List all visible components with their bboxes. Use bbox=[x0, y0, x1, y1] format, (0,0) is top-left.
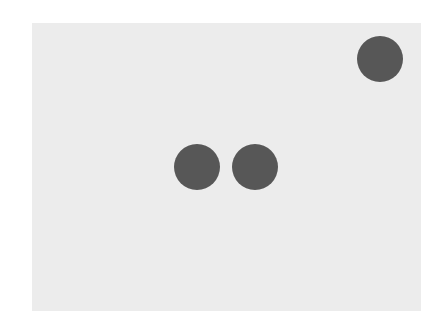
circle-middle-right bbox=[232, 144, 278, 190]
circle-top-right bbox=[357, 36, 403, 82]
canvas bbox=[0, 0, 444, 326]
circle-middle-left bbox=[174, 144, 220, 190]
